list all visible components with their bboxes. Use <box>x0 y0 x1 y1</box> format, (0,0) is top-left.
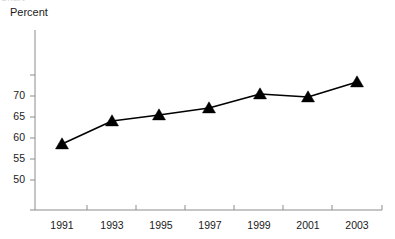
x-tick-label: 1991 <box>42 219 82 231</box>
x-tick-label: 2001 <box>288 219 328 231</box>
x-tick-label: 1995 <box>141 219 181 231</box>
data-point-marker <box>56 138 69 149</box>
y-tick-label: 65 <box>3 111 25 122</box>
line-chart-plot <box>0 0 395 239</box>
y-tick-label: 70 <box>3 90 25 101</box>
y-tick-label: 50 <box>3 174 25 185</box>
x-tick-label: 1997 <box>190 219 230 231</box>
data-point-marker <box>351 76 364 87</box>
y-tick-label: 60 <box>3 132 25 143</box>
x-tick-label: 1999 <box>239 219 279 231</box>
x-tick-label: 2003 <box>337 219 377 231</box>
data-point-marker <box>254 88 267 99</box>
y-tick-label: 55 <box>3 153 25 164</box>
chart-container: Chart Percent 7065605550 199119931995199… <box>0 0 395 239</box>
x-tick-label: 1993 <box>92 219 132 231</box>
